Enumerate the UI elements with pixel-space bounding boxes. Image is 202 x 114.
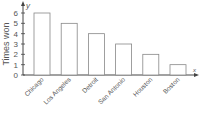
x-tick-label: Detroit [81,76,100,95]
bar-chart: xyTimes won0123456ChicagoLos AngelesDetr… [0,0,202,114]
bar-san-antonio [116,44,132,75]
y-tick-label: 2 [14,50,19,59]
y-tick-label: 4 [14,30,19,39]
y-axis-symbol: y [25,1,31,10]
y-tick-label: 1 [14,61,19,70]
x-tick-label: Los Angeles [42,75,73,106]
y-tick-label: 3 [14,40,19,49]
bar-chicago [34,13,50,75]
y-axis-label: Times won [1,22,11,65]
x-tick-label: San Antonio [97,75,127,105]
y-tick-label: 6 [14,9,19,18]
bar-detroit [88,34,104,75]
bar-boston [170,65,186,75]
y-tick-label: 0 [14,71,19,80]
x-axis-symbol: x [192,67,197,73]
x-tick-label: Chicago [23,75,46,98]
x-axis-arrow-icon [194,73,199,77]
bar-houston [143,54,159,75]
y-axis-arrow-icon [21,1,25,6]
x-tick-label: Boston [161,75,181,95]
y-tick-label: 5 [14,19,19,28]
x-tick-label: Houston [131,75,153,97]
bar-los-angeles [61,23,77,75]
